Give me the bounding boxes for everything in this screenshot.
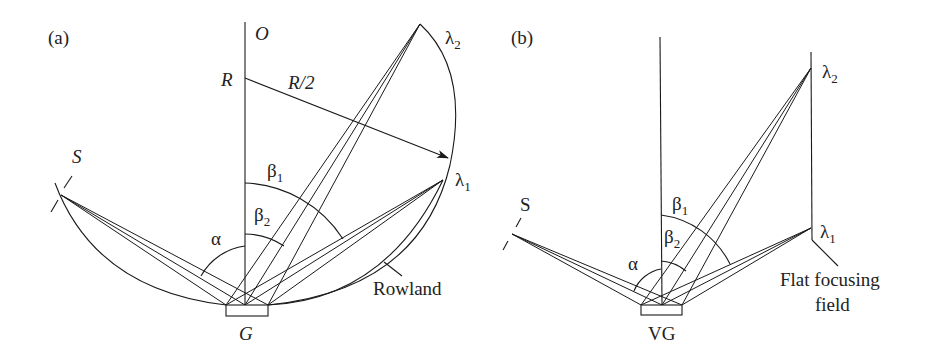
- label-beta2: β2: [254, 204, 270, 229]
- label-alpha: α: [211, 228, 221, 249]
- grating-G: [226, 305, 268, 316]
- beta2-angle-arc: [245, 234, 284, 246]
- label-lambda2: λ2: [445, 27, 461, 52]
- label-VG: VG: [648, 323, 676, 344]
- incident-rays-b: [512, 234, 682, 305]
- label-S: S: [72, 146, 82, 167]
- slit-mark-top: [64, 176, 72, 188]
- label-lambda2-b: λ2: [822, 61, 838, 86]
- rowland-arc-left: [55, 183, 226, 305]
- rowland-arc-right: [268, 24, 456, 305]
- label-beta1: β1: [267, 160, 283, 185]
- radius-arrow: [245, 78, 448, 158]
- label-lambda1-b: λ1: [820, 221, 836, 246]
- slit-mark-top-b: [516, 218, 521, 227]
- label-rowland: Rowland: [373, 278, 442, 299]
- panel-b-tag: (b): [511, 27, 533, 49]
- label-R-half: R/2: [287, 72, 315, 93]
- label-alpha-b: α: [628, 253, 638, 274]
- slit-mark-bottom-b: [503, 241, 508, 250]
- alpha-angle-arc: [201, 246, 245, 276]
- rowland-leader-line: [384, 262, 402, 276]
- label-lambda1: λ1: [455, 169, 471, 194]
- spectrometer-diagram: (a) O R R/2 S: [0, 0, 935, 356]
- label-S-b: S: [520, 194, 531, 215]
- slit-mark-bottom: [51, 200, 58, 212]
- label-G: G: [239, 323, 253, 344]
- grating-VG: [641, 305, 682, 315]
- alpha-angle-arc-b: [634, 269, 661, 291]
- label-O: O: [255, 23, 269, 44]
- flat-focusing-field-line: [811, 52, 812, 240]
- diffracted-rays-lambda2: [226, 24, 420, 305]
- label-beta1-b: β1: [672, 193, 688, 218]
- panel-a-rowland-mount: (a) O R R/2 S: [48, 22, 471, 344]
- panel-b-flat-field-mount: (b) S β1 β2: [503, 27, 880, 344]
- panel-a-tag: (a): [48, 27, 69, 49]
- grating-normal-line-b: [660, 37, 662, 305]
- label-beta2-b: β2: [664, 226, 680, 251]
- beta2-angle-arc-b: [661, 261, 686, 271]
- label-flat-field-line2: field: [815, 294, 850, 315]
- label-R: R: [220, 69, 233, 90]
- label-flat-field-line1: Flat focusing: [780, 269, 880, 290]
